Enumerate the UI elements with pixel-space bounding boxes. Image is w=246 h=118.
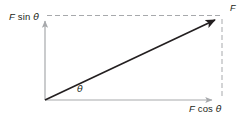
horizontal-component-angle: θ: [216, 103, 222, 114]
horizontal-component-label: F cos θ: [189, 104, 222, 114]
force-vector-diagram: F sin θ F cos θ F θ: [0, 0, 246, 118]
vertical-component-label: F sin θ: [9, 12, 39, 22]
resultant-force-vector: [45, 20, 215, 100]
horizontal-component-function: cos: [198, 103, 213, 114]
vertical-component-function: sin: [18, 11, 31, 22]
resultant-vector-label: F: [230, 4, 236, 13]
angle-theta-label: θ: [77, 84, 83, 94]
vertical-component-angle: θ: [33, 11, 39, 22]
